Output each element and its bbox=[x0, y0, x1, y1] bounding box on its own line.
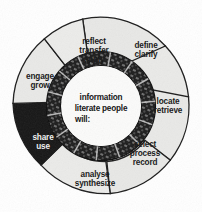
information-literacy-wheel: reflect transfer apply define clarify lo… bbox=[0, 0, 202, 212]
scan-grain-overlay bbox=[0, 0, 202, 212]
wheel-diagram-svg: reflect transfer apply define clarify lo… bbox=[0, 0, 202, 212]
